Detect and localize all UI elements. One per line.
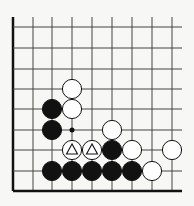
white-stone[interactable] [122,140,141,159]
black-stone[interactable] [42,161,61,180]
black-stone[interactable] [42,120,61,139]
black-stone[interactable] [82,161,101,180]
white-stone[interactable] [62,99,81,118]
black-stone[interactable] [122,161,141,180]
black-stone[interactable] [62,161,81,180]
white-stone[interactable] [62,140,81,159]
white-stone[interactable] [82,140,101,159]
point-marker-dot [70,128,75,133]
black-stone[interactable] [102,161,121,180]
white-stone[interactable] [102,120,121,139]
go-board[interactable] [0,0,194,206]
white-stone[interactable] [142,161,161,180]
white-stone[interactable] [62,79,81,98]
black-stone[interactable] [42,99,61,118]
black-stone[interactable] [102,140,121,159]
white-stone[interactable] [162,140,181,159]
